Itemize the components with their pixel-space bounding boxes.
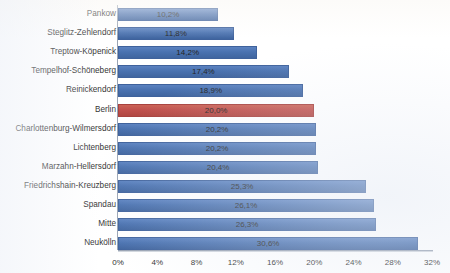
x-axis-tick-label: 12% bbox=[216, 258, 256, 267]
x-axis-tick-label: 0% bbox=[98, 258, 138, 267]
category-label: Friedrichshain-Kreuzberg bbox=[0, 179, 116, 193]
bar-value-label: 17,4% bbox=[118, 65, 289, 78]
y-axis-line bbox=[117, 5, 118, 250]
category-label: Steglitz-Zehlendorf bbox=[0, 26, 116, 40]
category-label: Neukölln bbox=[0, 236, 116, 250]
chart-title bbox=[8, 0, 428, 3]
category-label: Reinickendorf bbox=[0, 83, 116, 97]
bar-value-label: 10,2% bbox=[118, 8, 218, 21]
bar-row: Tempelhof-Schöneberg17,4% bbox=[0, 65, 450, 78]
bar-value-label: 20,2% bbox=[118, 142, 316, 155]
bar-value-label: 11,8% bbox=[118, 27, 234, 40]
bar-row: Reinickendorf18,9% bbox=[0, 84, 450, 97]
bar-row: Lichtenberg20,2% bbox=[0, 142, 450, 155]
bar-row: Friedrichshain-Kreuzberg25,3% bbox=[0, 180, 450, 193]
bar-value-label: 26,3% bbox=[118, 218, 376, 231]
bar-value-label: 20,0% bbox=[118, 104, 314, 117]
bar-value-label: 30,6% bbox=[118, 237, 418, 250]
category-label: Berlin bbox=[0, 103, 116, 117]
category-label: Mitte bbox=[0, 217, 116, 231]
x-axis-tick-label: 20% bbox=[294, 258, 334, 267]
bar-row: Mitte26,3% bbox=[0, 218, 450, 231]
category-label: Treptow-Köpenick bbox=[0, 45, 116, 59]
bar-row: Charlottenburg-Wilmersdorf20,2% bbox=[0, 123, 450, 136]
category-label: Spandau bbox=[0, 198, 116, 212]
category-label: Pankow bbox=[0, 7, 116, 21]
bar-row: Treptow-Köpenick14,2% bbox=[0, 46, 450, 59]
x-axis-tick-label: 16% bbox=[255, 258, 295, 267]
bar-row: Spandau26,1% bbox=[0, 199, 450, 212]
x-axis-tick-label: 32% bbox=[412, 258, 450, 267]
bar-row: Berlin20,0% bbox=[0, 104, 450, 117]
x-axis-line bbox=[118, 250, 433, 251]
category-label: Charlottenburg-Wilmersdorf bbox=[0, 122, 116, 136]
bar-value-label: 25,3% bbox=[118, 180, 366, 193]
bar-value-label: 20,4% bbox=[118, 161, 318, 174]
x-axis-tick-label: 4% bbox=[137, 258, 177, 267]
x-axis-tick-label: 28% bbox=[373, 258, 413, 267]
bar-value-label: 20,2% bbox=[118, 123, 316, 136]
bar-chart: Pankow10,2%Steglitz-Zehlendorf11,8%Trept… bbox=[0, 0, 450, 273]
bar-row: Steglitz-Zehlendorf11,8% bbox=[0, 27, 450, 40]
bar-row: Pankow10,2% bbox=[0, 8, 450, 21]
plot-area: Pankow10,2%Steglitz-Zehlendorf11,8%Trept… bbox=[0, 5, 450, 253]
bar-value-label: 14,2% bbox=[118, 46, 257, 59]
x-axis-tick-label: 8% bbox=[177, 258, 217, 267]
x-axis-tick-label: 24% bbox=[334, 258, 374, 267]
category-label: Lichtenberg bbox=[0, 141, 116, 155]
bar-value-label: 26,1% bbox=[118, 199, 374, 212]
category-label: Tempelhof-Schöneberg bbox=[0, 64, 116, 78]
bar-value-label: 18,9% bbox=[118, 84, 303, 97]
bar-row: Neukölln30,6% bbox=[0, 237, 450, 250]
category-label: Marzahn-Hellersdorf bbox=[0, 160, 116, 174]
bar-row: Marzahn-Hellersdorf20,4% bbox=[0, 161, 450, 174]
